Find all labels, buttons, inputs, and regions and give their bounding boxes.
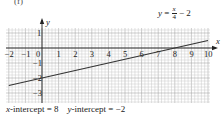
x-tick-label: 1 [57,49,61,59]
x-tick-label: 5 [123,49,127,59]
x-tick-label: 3 [90,49,94,59]
x-tick-label: 9 [189,49,193,59]
x-tick-label: 8 [173,49,177,59]
equation-label: y = x4 − 2 [158,6,191,21]
x-tick-label: 10 [204,49,213,59]
x-tick-label: 6 [140,49,144,59]
y-tick-label: −1 [33,58,42,68]
equation-equals: = [162,8,172,18]
x-intercept-text: -intercept = 8 [10,104,59,114]
x-tick-label: −1 [21,49,30,59]
y-intercept-text: -intercept = −2 [72,104,126,114]
intercepts-caption: x-intercept = 8y-intercept = −2 [6,105,125,114]
y-axis-label: y [45,17,50,27]
x-tick-label: 2 [73,49,77,59]
x-tick-label: −2 [5,49,14,59]
y-axis-arrow-icon [40,18,44,24]
x-tick-label: 7 [156,49,160,59]
x-axis-label: x [215,36,220,46]
y-tick-label: −3 [33,88,42,98]
y-tick-label: 1 [37,28,41,38]
x-tick-label: 4 [106,49,111,59]
equation-rest: − 2 [177,8,191,18]
x-axis-arrow-icon [212,46,218,50]
